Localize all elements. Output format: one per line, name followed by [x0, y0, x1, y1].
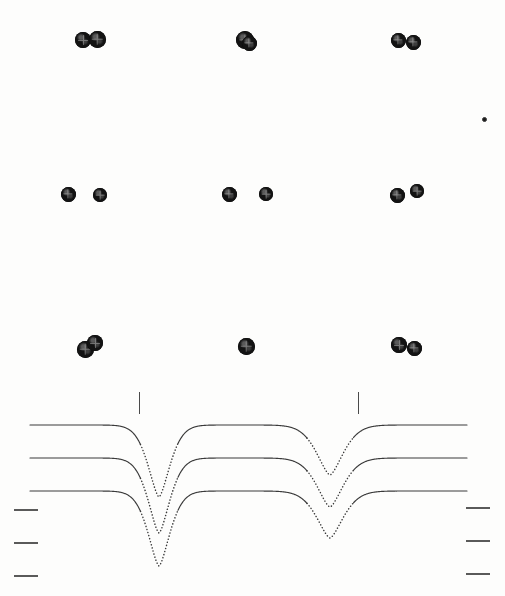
curve-continuum-solid [30, 491, 141, 511]
marker-crosshair-icon [413, 187, 422, 196]
marker-crosshair-icon [78, 35, 88, 45]
small-dot-marker [482, 117, 487, 122]
curve-dip-dotted [141, 510, 179, 566]
curve-dip-dotted [307, 470, 354, 507]
dark-disc-marker [391, 337, 407, 353]
right-axis-tick-1 [466, 540, 490, 542]
figure-canvas [0, 0, 505, 596]
marker-left [139, 392, 140, 414]
marker-crosshair-icon [262, 190, 271, 199]
left-axis-tick-2 [14, 575, 38, 577]
marker-crosshair-icon [96, 191, 105, 200]
curve-continuum-solid [354, 491, 468, 503]
marker-crosshair-icon [92, 34, 103, 45]
marker-crosshair-icon [408, 37, 417, 46]
marker-crosshair-icon [392, 190, 401, 199]
left-axis-tick-1 [14, 542, 38, 544]
dark-disc-marker [222, 187, 237, 202]
marker-crosshair-icon [241, 341, 252, 352]
dark-disc-marker [238, 338, 255, 355]
right-axis-tick-2 [466, 573, 490, 575]
spectrum-plot [0, 380, 505, 596]
dark-disc-marker [242, 36, 257, 51]
dark-disc-marker [259, 187, 273, 201]
curve-continuum-solid [354, 458, 468, 470]
curve-dip-dotted [307, 503, 354, 538]
marker-crosshair-icon [244, 38, 253, 47]
dark-disc-marker [391, 33, 406, 48]
marker-crosshair-icon [409, 343, 418, 352]
curve-continuum-solid [178, 491, 307, 510]
dark-disc-marker [93, 188, 107, 202]
marker-crosshair-icon [90, 338, 100, 348]
dark-disc-marker [410, 184, 424, 198]
right-axis-tick-0 [466, 507, 490, 509]
dark-disc-marker [407, 341, 422, 356]
spectrum-curve-curve-top [30, 425, 467, 497]
spectrum-curve-curve-middle [30, 458, 467, 533]
curve-continuum-solid [30, 458, 141, 478]
left-axis-tick-0 [14, 509, 38, 511]
curve-dip-dotted [141, 443, 179, 497]
curve-dip-dotted [141, 477, 179, 533]
marker-crosshair-icon [394, 340, 404, 350]
curve-continuum-solid [30, 425, 141, 445]
marker-crosshair-icon [393, 35, 402, 44]
curve-continuum-solid [178, 458, 307, 477]
dark-disc-marker [390, 188, 405, 203]
spectrum-panel [0, 380, 505, 596]
dark-disc-marker [87, 335, 103, 351]
curve-continuum-solid [178, 425, 307, 443]
curve-continuum-solid [354, 425, 468, 438]
spectrum-curve-curve-bottom [30, 491, 467, 566]
dark-disc-marker [61, 187, 76, 202]
dark-disc-marker [406, 35, 421, 50]
curve-dip-dotted [307, 438, 354, 475]
marker-crosshair-icon [63, 189, 72, 198]
marker-crosshair-icon [224, 189, 233, 198]
marker-right [358, 392, 359, 414]
dark-disc-marker [89, 31, 106, 48]
